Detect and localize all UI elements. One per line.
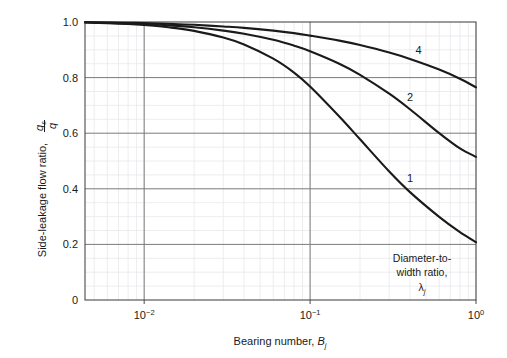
annotation-line-2: width ratio, (396, 266, 448, 278)
y-tick-label: 0.6 (63, 127, 78, 139)
curve-label-4: 4 (415, 44, 421, 56)
y-fraction-denominator: q (46, 122, 58, 129)
y-tick-label: 1.0 (63, 16, 78, 28)
curve-label-1: 1 (407, 172, 413, 184)
side-leakage-flow-ratio-chart: 10−210−1100 00.20.40.60.81.0 421 Bearing… (0, 0, 507, 358)
y-tick-label: 0.8 (63, 72, 78, 84)
chart-container: 10−210−1100 00.20.40.60.81.0 421 Bearing… (0, 0, 507, 358)
annotation-line-1: Diameter-to- (393, 252, 452, 264)
x-axis-symbol: B (317, 335, 324, 347)
y-tick-label: 0.2 (63, 238, 78, 250)
y-axis-title-text: Side-leakage flow ratio, (36, 143, 48, 257)
curve-label-2: 2 (407, 91, 413, 103)
x-axis-title-text: Bearing number, (234, 335, 315, 347)
x-axis-subscript: j (324, 341, 327, 350)
y-tick-label: 0 (72, 294, 78, 306)
y-tick-label: 0.4 (63, 183, 78, 195)
